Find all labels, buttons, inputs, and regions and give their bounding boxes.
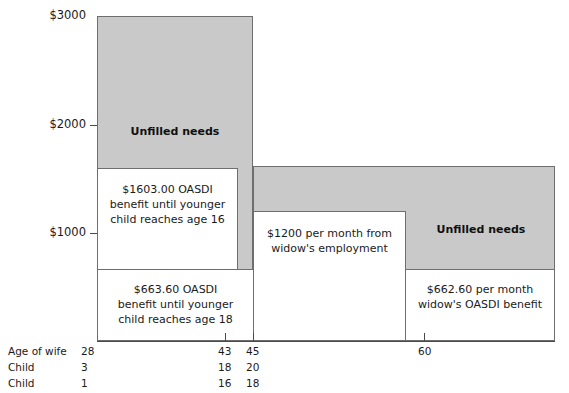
x-tick-mark-45 xyxy=(253,333,254,341)
legend-row0-start: 28 xyxy=(81,345,94,357)
legend-row-label-child-1: Child xyxy=(8,361,35,373)
benefit-box-663: $663.60 OASDI benefit until younger chil… xyxy=(97,269,254,341)
y-tick-1000: $1000 xyxy=(0,233,99,234)
employment-text-1200: $1200 per month from widow's employment xyxy=(254,226,405,256)
x-axis-line xyxy=(97,341,555,342)
y-tick-2000: $2000 xyxy=(0,125,99,126)
benefit-text-663: $663.60 OASDI benefit until younger chil… xyxy=(98,282,253,327)
y-tick-3000: $3000 xyxy=(0,16,99,17)
legend-row0-age43: 43 xyxy=(218,345,231,357)
y-tick-label-1000: $1000 xyxy=(0,227,86,239)
legend-row1-start: 3 xyxy=(81,361,88,373)
employment-box-1200: $1200 per month from widow's employment xyxy=(253,211,406,341)
unfilled-needs-label-left: Unfilled needs xyxy=(98,125,252,138)
legend-row0-age60: 60 xyxy=(418,345,431,357)
benefit-text-1603: $1603.00 OASDI benefit until younger chi… xyxy=(98,182,237,227)
legend-row-label-child-2: Child xyxy=(8,377,35,389)
unfilled-needs-label-right: Unfilled needs xyxy=(406,223,556,236)
benefit-box-662: $662.60 per month widow's OASDI benefit xyxy=(405,269,555,341)
legend-row1-age43: 18 xyxy=(218,361,231,373)
x-tick-mark-60 xyxy=(424,333,425,341)
legend-row1-age45: 20 xyxy=(246,361,259,373)
chart-canvas: $3000 $2000 $1000 Unfilled needs Unfille… xyxy=(0,0,569,393)
x-tick-mark-43 xyxy=(225,333,226,341)
benefit-text-662: $662.60 per month widow's OASDI benefit xyxy=(406,282,554,312)
y-tick-label-2000: $2000 xyxy=(0,119,86,131)
legend-row2-age43: 16 xyxy=(218,377,231,389)
legend-row-label-age-of-wife: Age of wife xyxy=(8,345,67,357)
y-tick-label-3000: $3000 xyxy=(0,10,86,22)
legend-row2-age45: 18 xyxy=(246,377,259,389)
legend-row2-start: 1 xyxy=(81,377,88,389)
legend-row0-age45: 45 xyxy=(246,345,259,357)
